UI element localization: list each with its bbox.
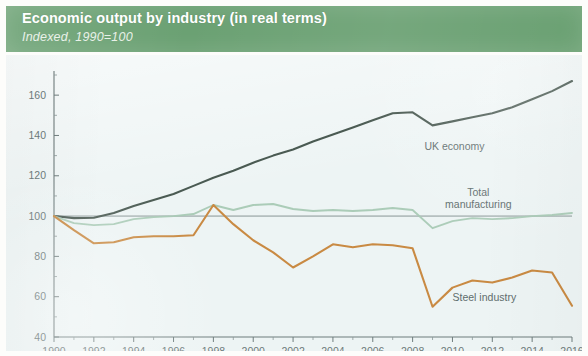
y-tick-label: 60 xyxy=(34,290,46,302)
series-label-total-manufacturing: Total xyxy=(467,186,489,198)
chart-header-band: Economic output by industry (in real ter… xyxy=(6,6,582,52)
y-tick-label: 140 xyxy=(28,129,46,141)
x-tick-label: 2002 xyxy=(281,345,305,351)
x-tick-label: 1990 xyxy=(42,345,66,351)
x-tick-label: 2014 xyxy=(520,345,544,351)
series-label-uk-economy: UK economy xyxy=(424,140,485,152)
x-tick-label: 2012 xyxy=(481,345,505,351)
y-tick-label: 100 xyxy=(28,210,46,222)
series-label-steel-industry: Steel industry xyxy=(453,291,517,303)
chart-page: Economic output by industry (in real ter… xyxy=(0,0,588,356)
x-tick-label: 1992 xyxy=(82,345,106,351)
x-tick-label: 2010 xyxy=(441,345,465,351)
x-tick-label: 2004 xyxy=(321,345,345,351)
y-tick-label: 40 xyxy=(34,331,46,343)
x-tick-label: 2016 xyxy=(560,345,582,351)
y-tick-label: 160 xyxy=(28,89,46,101)
x-tick-label: 2008 xyxy=(401,345,425,351)
line-chart: 4060801001201401601990199219941996199820… xyxy=(6,55,582,351)
y-tick-label: 120 xyxy=(28,169,46,181)
chart-subtitle: Indexed, 1990=100 xyxy=(22,30,133,44)
series-label-total-manufacturing: manufacturing xyxy=(445,198,512,210)
x-tick-label: 1996 xyxy=(162,345,186,351)
x-tick-label: 1998 xyxy=(202,345,226,351)
y-tick-label: 80 xyxy=(34,250,46,262)
chart-plot-area: 4060801001201401601990199219941996199820… xyxy=(6,55,582,351)
x-tick-label: 2000 xyxy=(242,345,266,351)
x-tick-label: 1994 xyxy=(122,345,146,351)
chart-title: Economic output by industry (in real ter… xyxy=(22,10,327,26)
x-tick-label: 2006 xyxy=(361,345,385,351)
